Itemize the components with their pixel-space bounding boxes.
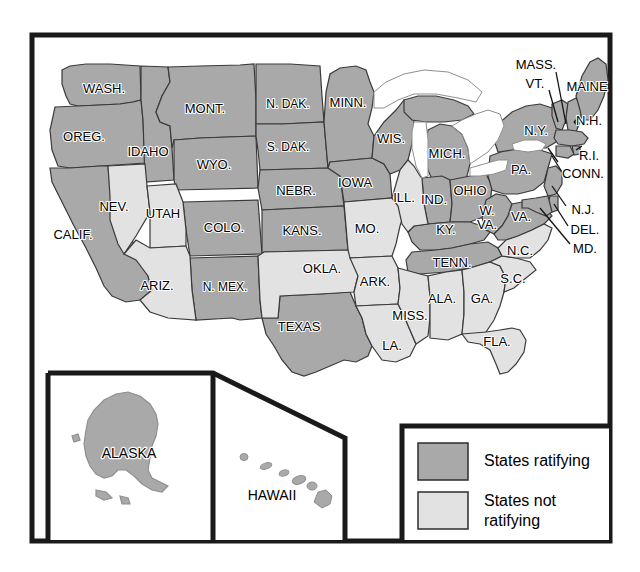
inset-label-hawaii: HAWAII (248, 487, 297, 503)
state-label-TN: TENN. (433, 255, 472, 270)
legend-label-not-ratifying-line1: States not (484, 492, 557, 509)
state-label-NY: N.Y. (524, 123, 548, 138)
legend-swatch-not-ratifying (418, 492, 468, 529)
state-label-NM: N. MEX. (203, 280, 248, 294)
state-label-IA: IOWA (338, 175, 373, 190)
callout-label-NH: N.H. (576, 113, 602, 128)
state-label-UT: UTAH (146, 206, 180, 221)
callout-label-CT: CONN. (562, 166, 604, 181)
state-label-IL: ILL. (393, 190, 415, 205)
state-label-GA: GA. (471, 291, 493, 306)
state-label-LA: LA. (382, 338, 402, 353)
state-label-WV2: VA. (477, 217, 497, 232)
legend: States ratifying States not ratifying (402, 426, 609, 540)
state-label-SD: S. DAK. (267, 140, 310, 154)
state-shape-MN (324, 66, 374, 168)
legend-swatch-ratifying (418, 443, 468, 480)
lake-ontario (512, 140, 546, 152)
state-label-PA: PA. (511, 162, 531, 177)
state-label-MN: MINN. (330, 95, 367, 110)
state-label-NC: N.C. (507, 243, 533, 258)
callout-label-NJ: N.J. (571, 202, 594, 217)
callout-label-DE: DEL. (571, 222, 600, 237)
state-label-CA: CALIF. (53, 227, 92, 242)
state-label-WV: W. (479, 203, 494, 218)
state-label-FL: FLA. (483, 334, 510, 349)
callout-label-RI: R.I. (579, 148, 599, 163)
state-label-AL: ALA. (428, 291, 456, 306)
callout-label-ME: MAINE (566, 79, 608, 94)
legend-label-ratifying: States ratifying (484, 452, 590, 469)
callout-label-MA: MASS. (516, 57, 556, 72)
state-label-NE: NEBR. (276, 183, 316, 198)
state-label-ID: IDAHO (127, 144, 168, 159)
state-label-WA: WASH. (83, 81, 125, 96)
state-shape-CT (556, 146, 574, 158)
state-label-NV: NEV. (99, 199, 128, 214)
us-ratification-map-figure: WASH.OREG.CALIF.NEV.IDAHOUTAHARIZ.MONT.W… (0, 0, 640, 572)
map-svg: WASH.OREG.CALIF.NEV.IDAHOUTAHARIZ.MONT.W… (0, 0, 640, 572)
state-label-SC: S.C. (500, 271, 525, 286)
state-shape-MA (554, 130, 588, 146)
legend-label-not-ratifying-line2: ratifying (484, 512, 540, 529)
state-label-WY: WYO. (197, 157, 232, 172)
state-label-VA: VA. (511, 209, 531, 224)
state-label-WI: WIS. (377, 131, 405, 146)
callout-label-MD: MD. (573, 241, 597, 256)
state-label-MO: MO. (355, 221, 380, 236)
inset-label-alaska: ALASKA (102, 445, 157, 461)
state-label-MT: MONT. (185, 101, 225, 116)
state-label-ND: N. DAK. (266, 97, 309, 111)
state-shape-ND (256, 64, 324, 124)
state-label-AR: ARK. (360, 274, 390, 289)
state-label-TX: TEXAS (278, 319, 321, 334)
state-label-AZ: ARIZ. (140, 278, 173, 293)
state-label-OK: OKLA. (303, 261, 341, 276)
state-label-MS: MISS. (392, 308, 427, 323)
state-label-OR: OREG. (63, 129, 105, 144)
state-label-KS: KANS. (282, 223, 321, 238)
state-label-IN: IND. (421, 192, 447, 207)
state-label-MI: MICH. (429, 146, 466, 161)
state-label-OH: OHIO (453, 183, 486, 198)
state-label-CO: COLO. (204, 220, 244, 235)
state-label-KY: KY. (436, 222, 455, 237)
callout-label-VT: VT. (526, 76, 545, 91)
